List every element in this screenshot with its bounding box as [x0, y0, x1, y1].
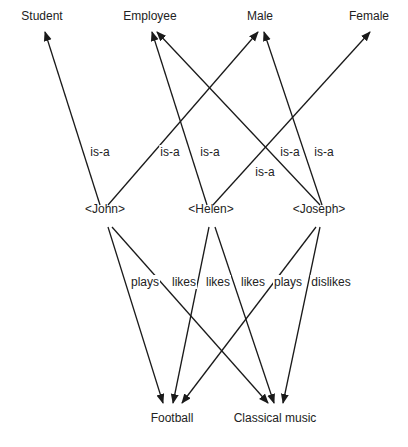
node-football: Football	[151, 411, 194, 425]
edge-arrow-is-a	[108, 32, 258, 205]
edge-arrow-is-a	[157, 32, 320, 205]
edge-label-dislikes: dislikes	[310, 275, 351, 289]
edge-arrow-likes	[173, 227, 209, 403]
edge-label-is-a: is-a	[89, 145, 110, 159]
node-student: Student	[21, 9, 62, 23]
edge-arrow-plays	[182, 227, 316, 403]
edge-arrow-is-a	[45, 32, 100, 205]
edge-arrow-is-a	[213, 32, 370, 205]
node-male: Male	[247, 9, 273, 23]
edge-label-likes: likes	[171, 275, 197, 289]
edge-label-is-a: is-a	[254, 165, 275, 179]
edge-label-likes: likes	[240, 275, 266, 289]
node-john: <John>	[85, 202, 125, 216]
edge-arrow-is-a	[152, 32, 207, 205]
edge-label-is-a: is-a	[279, 145, 300, 159]
edges-layer	[0, 0, 408, 447]
edge-label-is-a: is-a	[313, 145, 334, 159]
edge-arrow-is-a	[264, 32, 322, 205]
node-helen: <Helen>	[188, 202, 233, 216]
node-classical-music: Classical music	[234, 411, 317, 425]
edge-label-plays: plays	[273, 275, 303, 289]
node-female: Female	[349, 9, 389, 23]
node-employee: Employee	[123, 9, 176, 23]
edge-arrow-dislikes	[283, 227, 320, 403]
edge-label-is-a: is-a	[199, 145, 220, 159]
edge-label-likes: likes	[205, 275, 231, 289]
edge-label-is-a: is-a	[159, 145, 180, 159]
semantic-network-diagram: Student Employee Male Female <John> <Hel…	[0, 0, 408, 447]
edge-label-plays: plays	[130, 275, 160, 289]
node-joseph: <Joseph>	[293, 202, 346, 216]
